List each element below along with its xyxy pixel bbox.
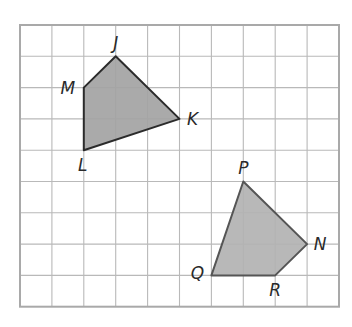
figures-layer [84, 56, 307, 275]
coordinate-grid [20, 25, 339, 307]
diagram-canvas: JKLMPNRQ [0, 0, 352, 327]
vertex-label-r: R [269, 280, 281, 300]
vertex-label-p: P [238, 158, 249, 178]
quadrilateral-pnrq [211, 182, 307, 276]
quadrilateral-jklm [84, 56, 180, 150]
vertex-label-m: M [60, 78, 75, 98]
vertex-label-j: J [110, 33, 118, 53]
vertex-label-q: Q [191, 263, 204, 283]
vertex-label-l: L [78, 155, 87, 175]
vertex-label-n: N [314, 234, 327, 254]
vertex-label-k: K [187, 109, 200, 129]
